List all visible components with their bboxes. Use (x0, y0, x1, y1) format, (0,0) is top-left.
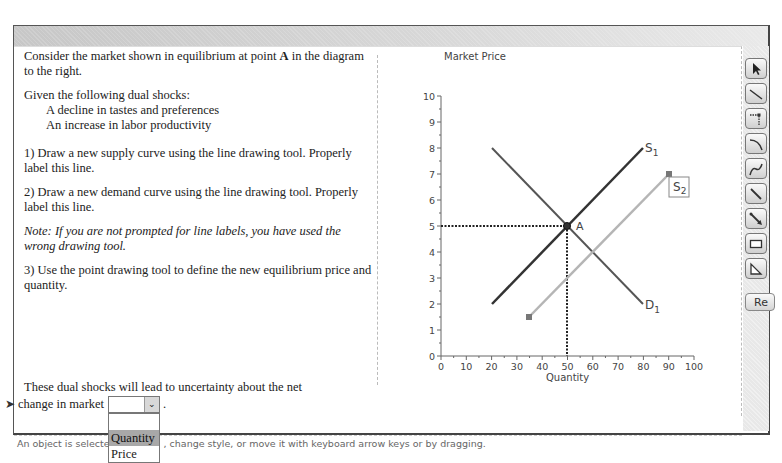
svg-text:6: 6 (429, 195, 435, 206)
panel-divider (377, 55, 378, 385)
y-axis-label: Market Price (444, 51, 506, 62)
triangle-tool-button[interactable] (745, 258, 767, 279)
rectangle-icon (748, 236, 764, 252)
instructions-panel: Consider the market shown in equilibrium… (24, 49, 374, 302)
content-area: Consider the market shown in equilibrium… (14, 46, 742, 416)
arrow-pointer-icon (748, 61, 764, 77)
line-icon (748, 86, 764, 102)
question-line-1: These dual shocks will lead to uncertain… (24, 380, 302, 395)
svg-text:10: 10 (460, 361, 472, 372)
drawing-toolbar: Re (743, 46, 769, 431)
svg-text:20: 20 (486, 361, 498, 372)
svg-text:10: 10 (423, 91, 435, 102)
step-1: 1) Draw a new supply curve using the lin… (24, 146, 374, 176)
shocks-heading: Given the following dual shocks: (24, 88, 190, 102)
problem-frame: Consider the market shown in equilibrium… (13, 25, 770, 435)
svg-text:2: 2 (429, 299, 435, 310)
curve-icon (748, 136, 764, 152)
equilibrium-point-a[interactable] (564, 223, 571, 230)
svg-text:60: 60 (587, 361, 599, 372)
line-segment-icon (748, 186, 764, 202)
svg-text:0: 0 (438, 361, 444, 372)
triangle-icon (748, 261, 764, 277)
svg-text:70: 70 (612, 361, 624, 372)
chevron-down-icon[interactable]: ⌄ (144, 397, 159, 412)
s2-end-handle[interactable] (666, 171, 672, 177)
point-tool-button[interactable] (745, 108, 767, 129)
svg-text:100: 100 (685, 361, 703, 372)
reset-button[interactable]: Re (745, 293, 775, 311)
shock-item: An increase in labor productivity (24, 118, 211, 132)
current-question-arrow-icon: ➤ (5, 397, 15, 412)
svg-text:30: 30 (511, 361, 523, 372)
shock-item: A decline in tastes and preferences (24, 103, 219, 117)
select-tool-button[interactable] (745, 58, 767, 79)
intro-text: Consider the market shown in equilibrium… (24, 49, 374, 79)
svg-text:3: 3 (429, 273, 435, 284)
option-price[interactable]: Price (109, 446, 159, 462)
s1-label: S1 (645, 141, 658, 158)
step-2: 2) Draw a new demand curve using the lin… (24, 185, 374, 215)
svg-text:4: 4 (429, 247, 435, 258)
svg-text:9: 9 (429, 117, 435, 128)
dotted-point-icon (748, 111, 764, 127)
shocks-block: Given the following dual shocks: A decli… (24, 88, 374, 133)
s2-start-handle[interactable] (526, 314, 532, 320)
svg-text:50: 50 (561, 361, 573, 372)
point-a-label: A (576, 220, 584, 233)
rectangle-tool-button[interactable] (745, 233, 767, 254)
select-dropdown-list: Quantity Price (108, 413, 160, 463)
svg-text:80: 80 (637, 361, 649, 372)
option-blank[interactable] (109, 414, 159, 430)
svg-text:5: 5 (429, 221, 435, 232)
market-change-select[interactable]: ⌄ Quantity Price (108, 396, 160, 413)
svg-text:90: 90 (663, 361, 675, 372)
d1-label: D1 (645, 298, 660, 315)
line-segment-tool-button[interactable] (745, 183, 767, 204)
option-quantity[interactable]: Quantity (109, 430, 159, 446)
note-text: Note: If you are not prompted for line l… (24, 224, 374, 254)
line-tool-button[interactable] (745, 83, 767, 104)
arrow-line-icon (748, 211, 764, 227)
freehand-tool-button[interactable] (745, 158, 767, 179)
y-ticks: 012345678910 (423, 91, 441, 362)
arrow-tool-button[interactable] (745, 208, 767, 229)
supply-demand-chart[interactable]: Market Price 012345678910 01020304050607… (380, 47, 742, 415)
question-text: change in market (18, 397, 104, 412)
svg-text:40: 40 (536, 361, 548, 372)
svg-text:7: 7 (429, 169, 435, 180)
x-ticks: 0102030405060708090100 (438, 356, 703, 372)
question-line-2: ➤ change in market ⌄ Quantity Price . (5, 396, 166, 413)
freehand-curve-icon (748, 161, 764, 177)
svg-text:1: 1 (429, 325, 435, 336)
step-3: 3) Use the point drawing tool to define … (24, 263, 374, 293)
sentence-period: . (163, 397, 166, 412)
title-bar (14, 26, 768, 46)
curve-tool-button[interactable] (745, 133, 767, 154)
svg-text:0: 0 (429, 351, 435, 362)
svg-text:8: 8 (429, 143, 435, 154)
x-axis-label: Quantity (546, 372, 589, 383)
